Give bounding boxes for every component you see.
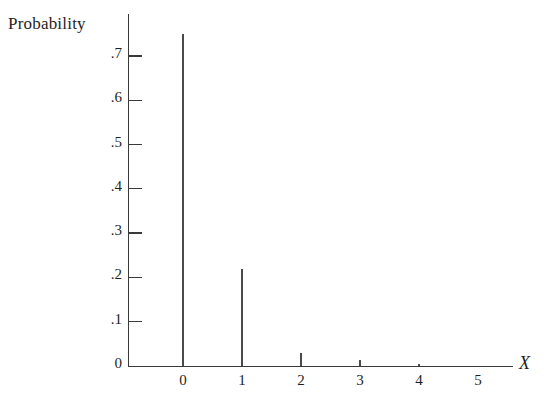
y-axis-line — [128, 14, 129, 367]
y-axis-label: Probability — [8, 14, 86, 34]
x-axis-tick-label: 1 — [222, 372, 262, 389]
x-axis-tick-label: 2 — [281, 372, 321, 389]
spike-bar — [359, 360, 361, 366]
spike-bar — [300, 353, 302, 366]
y-axis-tick-label: .3 — [62, 222, 122, 239]
y-axis-tick-label: .6 — [62, 89, 122, 106]
spike-bar — [418, 364, 420, 366]
y-axis-tick-label: .2 — [62, 266, 122, 283]
y-axis-tick — [129, 55, 142, 56]
y-axis-tick-label: 0 — [62, 355, 122, 372]
y-axis-tick — [129, 232, 142, 233]
y-axis-tick-label: .7 — [62, 45, 122, 62]
y-axis-tick-label: .4 — [62, 178, 122, 195]
y-axis-tick — [129, 100, 142, 101]
y-axis-tick-label: .1 — [62, 311, 122, 328]
probability-spike-chart: Probability 0.1.2.3.4.5.6.7 012345 X — [0, 0, 551, 407]
x-axis-tick-label: 3 — [340, 372, 380, 389]
x-axis-tick-label: 0 — [163, 372, 203, 389]
x-axis-line — [128, 366, 513, 367]
y-axis-tick — [129, 144, 142, 145]
y-axis-tick — [129, 188, 142, 189]
x-axis-label: X — [519, 353, 530, 374]
y-axis-tick — [129, 277, 142, 278]
y-axis-tick-label: .5 — [62, 134, 122, 151]
spike-bar — [182, 34, 184, 366]
x-axis-tick-label: 4 — [399, 372, 439, 389]
y-axis-tick — [129, 321, 142, 322]
spike-bar — [241, 269, 243, 366]
x-axis-tick-label: 5 — [458, 372, 498, 389]
